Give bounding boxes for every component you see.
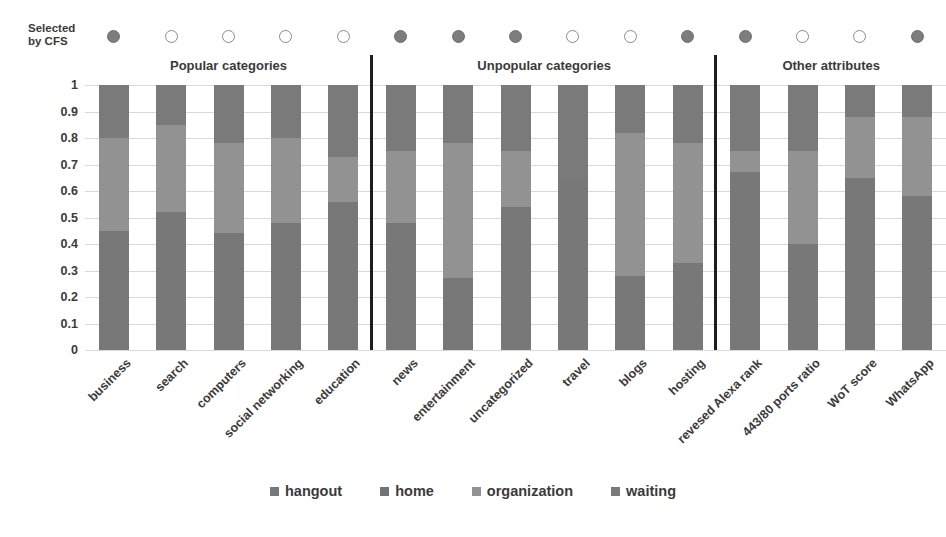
segment-organization — [386, 151, 416, 223]
segment-hangout — [615, 276, 645, 350]
y-tick-label-0.4: 0.4 — [61, 238, 78, 250]
chart-legend: hangouthomeorganizationwaiting — [0, 478, 946, 504]
segment-hangout — [443, 278, 473, 350]
x-label-whatsapp: WhatsApp — [715, 356, 937, 537]
segment-organization — [156, 125, 186, 212]
x-axis-labels: businesssearchcomputerssocial networking… — [0, 350, 946, 470]
y-tick-label-0.9: 0.9 — [61, 106, 78, 118]
segment-organization — [788, 151, 818, 244]
y-tick-label-0.7: 0.7 — [61, 159, 78, 171]
segment-hangout — [386, 223, 416, 350]
segment-organization — [730, 151, 760, 172]
segment-hangout — [730, 172, 760, 350]
bar-hosting — [673, 85, 703, 350]
segment-organization — [673, 143, 703, 262]
legend-item-waiting: waiting — [611, 483, 676, 499]
cfs-marker-443-80-ports-ratio — [796, 30, 809, 43]
segment-organization — [99, 138, 129, 231]
group-divider-1 — [370, 55, 373, 350]
segment-hangout — [902, 196, 932, 350]
bar-blogs — [615, 85, 645, 350]
group-title-2: Other attributes — [721, 58, 941, 73]
segment-waiting — [501, 85, 531, 151]
legend-swatch-icon — [380, 487, 389, 496]
y-tick-label-0.8: 0.8 — [61, 132, 78, 144]
legend-swatch-icon — [472, 487, 481, 496]
cfs-marker-revesed-alexa-rank — [739, 30, 752, 43]
plot-area — [85, 85, 946, 350]
segment-waiting — [386, 85, 416, 151]
segment-waiting — [328, 85, 358, 157]
segment-organization — [214, 143, 244, 233]
segment-hangout — [328, 202, 358, 350]
segment-organization — [902, 117, 932, 197]
y-axis: 00.10.20.30.40.50.60.70.80.91 — [34, 85, 78, 350]
segment-hangout — [214, 233, 244, 350]
segment-waiting — [902, 85, 932, 117]
segment-waiting — [615, 85, 645, 133]
segment-waiting — [673, 85, 703, 143]
bar-entertainment — [443, 85, 473, 350]
segment-waiting — [788, 85, 818, 151]
cfs-marker-search — [165, 30, 178, 43]
segment-organization — [328, 157, 358, 202]
segment-waiting — [558, 85, 588, 178]
x-label-business: business — [0, 356, 134, 537]
y-tick-label-0.5: 0.5 — [61, 212, 78, 224]
cfs-axis-label: Selected by CFS — [28, 22, 88, 48]
bar-computers — [214, 85, 244, 350]
cfs-marker-education — [337, 30, 350, 43]
bar-uncategorized — [501, 85, 531, 350]
y-tick-label-0.6: 0.6 — [61, 185, 78, 197]
segment-hangout — [99, 231, 129, 350]
cfs-label-line1: Selected — [28, 22, 88, 35]
bar-social-networking — [271, 85, 301, 350]
group-title-0: Popular categories — [119, 58, 339, 73]
segment-hangout — [558, 178, 588, 350]
segment-organization — [271, 138, 301, 223]
legend-label: home — [395, 483, 434, 499]
segment-waiting — [214, 85, 244, 143]
segment-hangout — [156, 212, 186, 350]
bar-travel — [558, 85, 588, 350]
cfs-marker-wot-score — [853, 30, 866, 43]
bar-443-80-ports-ratio — [788, 85, 818, 350]
legend-label: hangout — [285, 483, 342, 499]
bar-wot-score — [845, 85, 875, 350]
segment-waiting — [99, 85, 129, 138]
segment-hangout — [788, 244, 818, 350]
bar-whatsapp — [902, 85, 932, 350]
stacked-bar-chart: Selected by CFS Popular categoriesUnpopu… — [0, 0, 946, 537]
segment-hangout — [845, 178, 875, 350]
cfs-marker-uncategorized — [509, 30, 522, 43]
segment-waiting — [845, 85, 875, 117]
segment-organization — [501, 151, 531, 207]
cfs-marker-travel — [566, 30, 579, 43]
y-tick-label-0.3: 0.3 — [61, 265, 78, 277]
legend-item-hangout: hangout — [270, 483, 342, 499]
segment-waiting — [271, 85, 301, 138]
legend-item-home: home — [380, 483, 434, 499]
cfs-marker-business — [107, 30, 120, 43]
segment-waiting — [156, 85, 186, 125]
legend-label: organization — [487, 483, 573, 499]
cfs-marker-news — [394, 30, 407, 43]
bar-news — [386, 85, 416, 350]
bar-education — [328, 85, 358, 350]
cfs-marker-blogs — [624, 30, 637, 43]
group-title-1: Unpopular categories — [434, 58, 654, 73]
legend-swatch-icon — [270, 487, 279, 496]
segment-waiting — [443, 85, 473, 143]
y-tick-label-0.1: 0.1 — [61, 318, 78, 330]
group-divider-2 — [714, 55, 717, 350]
cfs-marker-row — [85, 30, 946, 52]
cfs-marker-whatsapp — [911, 30, 924, 43]
segment-hangout — [673, 263, 703, 350]
cfs-marker-social-networking — [279, 30, 292, 43]
segment-organization — [443, 143, 473, 278]
segment-waiting — [730, 85, 760, 151]
cfs-marker-computers — [222, 30, 235, 43]
segment-organization — [845, 117, 875, 178]
legend-swatch-icon — [611, 487, 620, 496]
cfs-label-line2: by CFS — [28, 35, 88, 48]
